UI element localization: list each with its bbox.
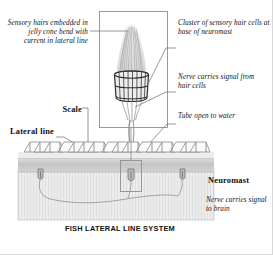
label-scale: Scale [30,105,82,114]
scale-row [24,142,210,152]
fish-body-cross-section [18,152,214,220]
label-hair-cell-cluster: Cluster of sensory hair cells at base of… [178,19,270,37]
figure-caption: FISH LATERAL LINE SYSTEM [40,224,200,233]
neuromast-right [180,169,185,179]
fish-lateral-line-figure: Sensory hairs embedded in jelly cone ben… [0,0,273,255]
label-tube-open-to-water: Tube open to water [178,112,266,121]
label-nerve-from-hair-cells: Nerve carries signal from hair cells [178,73,266,91]
hair-cell-cluster [115,71,149,102]
neuromast-left [38,169,43,179]
neuromast-center [128,169,134,181]
label-lateral-line: Lateral line [2,127,54,138]
label-nerve-to-brain: Nerve carries signal to brain [206,196,272,214]
label-sensory-hairs: Sensory hairs embedded in jelly cone ben… [6,19,88,46]
label-neuromast: Neuromast [208,176,272,185]
